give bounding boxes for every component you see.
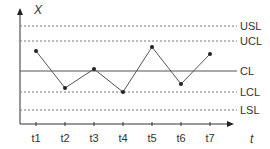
data-point-marker — [208, 52, 212, 56]
x-axis-arrow-icon — [227, 121, 234, 127]
tick-label-t3: t3 — [89, 133, 98, 144]
tick-label-t1: t1 — [31, 133, 40, 144]
tick-label-t5: t5 — [147, 133, 156, 144]
data-point-marker — [179, 82, 183, 86]
tick-label-t4: t4 — [118, 133, 127, 144]
tick-label-t6: t6 — [176, 133, 185, 144]
tick-label-t2: t2 — [60, 133, 69, 144]
series-line — [36, 47, 210, 92]
data-series — [34, 45, 212, 94]
usl-label: USL — [240, 21, 261, 32]
reference-lines — [20, 26, 237, 110]
tick-label-t7: t7 — [205, 133, 214, 144]
x-axis-label: t — [250, 132, 253, 146]
data-point-marker — [34, 49, 38, 53]
cl-label: CL — [240, 66, 254, 77]
data-point-marker — [63, 86, 67, 90]
lcl-label: LCL — [240, 87, 260, 98]
ucl-label: UCL — [240, 36, 262, 47]
lsl-label: LSL — [240, 105, 260, 116]
data-point-marker — [150, 45, 154, 49]
y-axis-arrow-icon — [17, 8, 23, 15]
control-chart — [0, 0, 270, 149]
y-axis-label: X — [34, 3, 42, 17]
data-point-marker — [121, 90, 125, 94]
data-point-marker — [92, 67, 96, 71]
